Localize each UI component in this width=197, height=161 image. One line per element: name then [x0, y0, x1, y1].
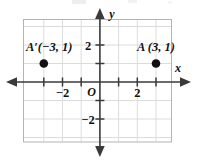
origin-label: O: [87, 85, 96, 99]
axes: [12, 14, 185, 150]
data-point-a: [152, 59, 161, 68]
y-tick-label-2: 2: [85, 39, 91, 53]
x-axis-arrow-right: [180, 77, 191, 87]
data-point-a-prime: [40, 59, 49, 68]
plot-frame: [24, 20, 172, 143]
y-axis-arrow-down: [95, 146, 105, 157]
point-label-a-prime: A′(−3, 1): [25, 40, 73, 54]
x-tick-label-2: 2: [134, 86, 140, 100]
y-axis-arrow-up: [95, 8, 105, 19]
point-label-a: A (3, 1): [136, 40, 175, 54]
coordinate-plane-svg: A′(−3, 1) A (3, 1) 2 −2 −2 2 O x y: [0, 0, 197, 161]
x-axis-arrow-left: [6, 77, 17, 87]
y-tick-label-neg2: −2: [81, 113, 94, 127]
x-tick-label-neg2: −2: [56, 86, 69, 100]
y-axis-label: y: [107, 7, 115, 21]
coordinate-plane-figure: A′(−3, 1) A (3, 1) 2 −2 −2 2 O x y: [0, 0, 197, 161]
grid-lines: [23, 19, 172, 142]
x-axis-label: x: [174, 61, 181, 75]
